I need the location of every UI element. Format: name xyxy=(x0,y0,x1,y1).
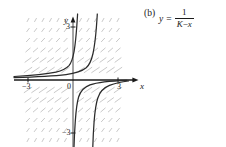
equation-lhs: y xyxy=(159,14,163,24)
curve-k-145 xyxy=(14,14,97,78)
denominator-x: x xyxy=(188,19,192,29)
x-axis-label: x xyxy=(140,82,144,91)
fraction-denominator: K−x xyxy=(175,20,194,29)
curve-k-138 xyxy=(93,81,129,147)
caption-tag: (b) xyxy=(144,8,155,18)
figure-caption: (b) y = 1 K−x xyxy=(144,8,226,30)
equation-equals: = xyxy=(166,14,171,24)
x-axis-arrow xyxy=(132,78,138,83)
equation-fraction: 1 K−x xyxy=(175,8,194,30)
y-axis-arrow xyxy=(71,17,76,23)
y-tick-minus3: −3 xyxy=(62,129,71,137)
figure-container: y x −3 0 3 3 −3 (b) y = 1 K−x xyxy=(0,0,226,147)
x-tick-zero: 0 xyxy=(67,83,71,91)
fraction-numerator: 1 xyxy=(179,8,190,17)
y-tick-3: 3 xyxy=(66,23,70,31)
slope-field-plot: y x −3 0 3 3 −3 xyxy=(0,0,150,147)
caption-equation: y = 1 K−x xyxy=(159,8,194,30)
x-tick-3: 3 xyxy=(117,83,121,91)
x-tick-minus3: −3 xyxy=(22,83,31,91)
